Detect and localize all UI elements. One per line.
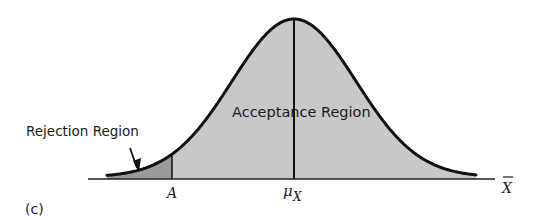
rejection-arrow-icon	[130, 148, 141, 172]
mean-label: μ X	[283, 182, 302, 204]
axis-variable-label: X	[501, 177, 513, 196]
critical-value-label: A	[165, 185, 177, 201]
acceptance-region-fill	[172, 19, 476, 179]
hypothesis-test-diagram: Rejection Region Acceptance Region A μ X…	[0, 0, 543, 220]
rejection-region-label: Rejection Region	[26, 123, 139, 139]
acceptance-region-label: Acceptance Region	[232, 104, 371, 120]
x-bar-symbol: X	[501, 180, 513, 196]
mean-subscript: X	[292, 190, 302, 204]
panel-label: (c)	[25, 201, 44, 217]
mean-symbol: μ	[283, 182, 293, 200]
